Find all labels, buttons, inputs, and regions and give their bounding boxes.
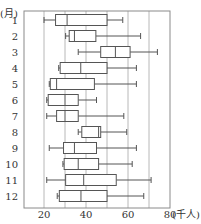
y-tick-label: 2 [12, 31, 18, 42]
x-axis-labels: 20406080 [38, 209, 177, 220]
x-tick-label: 40 [80, 209, 93, 220]
box-month-2 [66, 31, 141, 42]
x-axis-unit: (千人) [172, 209, 200, 220]
y-tick-label: 10 [5, 159, 18, 170]
y-tick-label: 4 [12, 63, 18, 74]
iqr-box [60, 63, 107, 74]
boxplot-chart: 123456789101112 20406080 (月) (千人) [0, 0, 201, 224]
iqr-box [59, 191, 107, 202]
box-month-4 [59, 63, 137, 74]
y-tick-label: 3 [12, 47, 18, 58]
box-month-9 [49, 143, 136, 154]
iqr-box [48, 95, 78, 106]
y-tick-label: 8 [12, 127, 18, 138]
y-tick-label: 7 [12, 111, 18, 122]
box-month-5 [49, 79, 136, 90]
box-month-10 [63, 159, 132, 170]
iqr-box [57, 111, 79, 122]
box-month-6 [47, 95, 97, 106]
box-month-8 [78, 127, 127, 138]
y-axis-title: (月) [0, 8, 18, 19]
box-month-7 [47, 111, 124, 122]
y-tick-label: 6 [12, 95, 18, 106]
x-tick-label: 60 [122, 209, 135, 220]
box-month-11 [47, 175, 151, 186]
boxes [44, 15, 157, 202]
y-tick-label: 12 [5, 191, 18, 202]
y-tick-label: 9 [12, 143, 18, 154]
box-month-12 [57, 191, 144, 202]
iqr-box [82, 127, 101, 138]
iqr-box [56, 15, 107, 26]
iqr-box [64, 159, 98, 170]
x-tick-label: 20 [38, 209, 51, 220]
y-tick-label: 11 [5, 175, 18, 186]
box-month-1 [44, 15, 123, 26]
iqr-box [64, 143, 97, 154]
iqr-box [66, 175, 117, 186]
y-axis-labels: 123456789101112 [5, 15, 18, 202]
y-tick-label: 5 [12, 79, 18, 90]
iqr-box [69, 31, 96, 42]
box-month-3 [78, 47, 157, 58]
